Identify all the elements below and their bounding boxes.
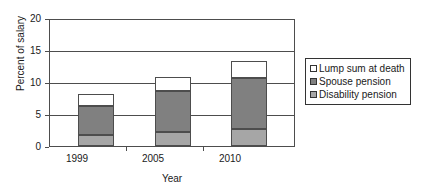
bar-segment-1999-spouse-pension[interactable] [78,106,114,135]
bar-segment-2010-disability-pension[interactable] [231,129,267,146]
legend-label-disability-pension: Disability pension [319,89,397,100]
y-tick-label-10: 10 [15,78,41,88]
legend-label-lump-sum-at-death: Lump sum at death [319,63,405,74]
bar-segment-2005-lump-sum-at-death[interactable] [155,77,191,91]
legend-swatch-icon-lump-sum-at-death [310,65,317,72]
y-tick-label-20: 20 [15,14,41,24]
y-tick-label-5: 5 [15,110,41,120]
legend-label-spouse-pension: Spouse pension [319,76,391,87]
bar-segment-2005-disability-pension[interactable] [155,132,191,146]
bar-segment-2010-lump-sum-at-death[interactable] [231,61,267,78]
y-tick-label-15: 15 [15,46,41,56]
y-tick-label-0: 0 [15,142,41,152]
bar-segment-1999-lump-sum-at-death[interactable] [78,94,114,106]
x-tick-label-2010: 2010 [200,153,260,164]
x-tick-label-1999: 1999 [47,153,107,164]
gridline-15 [50,51,294,52]
x-tick-label-2005: 2005 [123,153,183,164]
bar-segment-2005-spouse-pension[interactable] [155,91,191,132]
x-axis-title: Year [49,173,295,184]
legend-swatch-icon-spouse-pension [310,78,317,85]
bar-segment-1999-disability-pension[interactable] [78,135,114,146]
x-tick-mark-2 [203,147,204,151]
y-axis-tick-group: 20 15 10 5 0 [11,0,41,193]
bar-segment-2010-spouse-pension[interactable] [231,78,267,129]
plot-area [49,19,295,147]
legend-swatch-icon-disability-pension [310,91,317,98]
legend-item-disability-pension[interactable]: Disability pension [310,88,406,101]
stacked-bar-chart: Percent of salary 20 15 10 5 0 [0,0,429,193]
y-tick-mark-0 [45,147,49,148]
legend-item-lump-sum-at-death[interactable]: Lump sum at death [310,62,406,75]
x-tick-mark-1 [126,147,127,151]
legend: Lump sum at death Spouse pension Disabil… [305,58,411,105]
legend-item-spouse-pension[interactable]: Spouse pension [310,75,406,88]
